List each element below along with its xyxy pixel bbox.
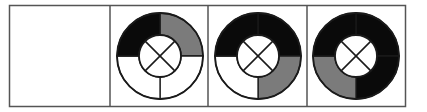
ring-cell-2 bbox=[117, 13, 203, 99]
ring-cell-4 bbox=[313, 13, 399, 99]
ring-cell-3 bbox=[215, 13, 301, 99]
ring-sequence-figure bbox=[0, 0, 427, 112]
